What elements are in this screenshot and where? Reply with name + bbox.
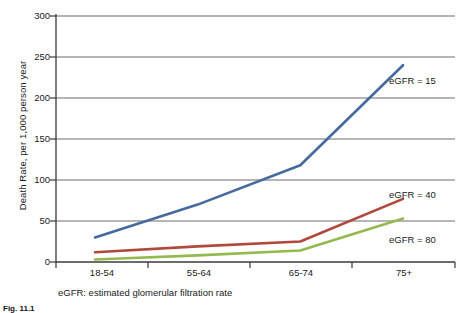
series-line-egfr-40 <box>95 199 403 252</box>
series-line-egfr-80 <box>95 219 403 260</box>
x-tick-75plus: 75+ <box>396 268 412 278</box>
x-axis-tick-labels: 18-54 55-64 65-74 75+ <box>0 268 464 284</box>
x-tick-65-74: 65-74 <box>289 268 313 278</box>
figure-caption: Fig. 11.1 <box>3 305 35 313</box>
series-label-egfr-40: eGFR = 40 <box>389 190 436 200</box>
series-label-egfr-15: eGFR = 15 <box>389 76 436 86</box>
y-tick-marks <box>50 16 56 262</box>
chart-footnote: eGFR: estimated glomerular filtration ra… <box>58 288 232 298</box>
plot-area <box>0 0 464 313</box>
x-tick-18-54: 18-54 <box>90 268 114 278</box>
series-line-egfr-15 <box>95 65 403 237</box>
figure-chart: Death Rate, per 1,000 person year 300 25… <box>0 0 464 313</box>
series-label-egfr-80: eGFR = 80 <box>389 235 436 245</box>
x-tick-55-64: 55-64 <box>187 268 211 278</box>
